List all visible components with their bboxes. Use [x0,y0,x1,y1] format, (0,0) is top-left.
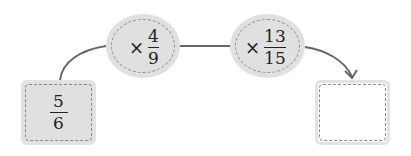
connector-start-to-step1 [60,46,106,80]
connector-step2-to-result [305,47,352,77]
step-1-operator-node: × 4 9 [106,14,180,78]
start-value-box: 5 6 [21,80,96,145]
multiply-icon: × [245,37,260,58]
start-numerator: 5 [53,93,64,110]
start-denominator: 6 [53,115,64,132]
step-2-operator-node: × 13 15 [230,14,305,78]
step-1-numerator: 4 [148,28,159,45]
result-answer-box[interactable] [315,80,390,145]
start-fraction: 5 6 [24,93,93,132]
step-2-numerator: 13 [264,28,286,45]
step-2-denominator: 15 [264,50,286,67]
step-1-denominator: 9 [148,50,159,67]
multiply-icon: × [129,37,144,58]
